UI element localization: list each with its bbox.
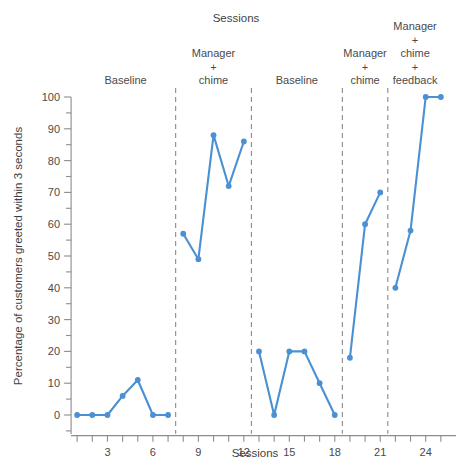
data-point [211,132,217,138]
x-tick-label: 24 [420,446,432,458]
y-tick-label: 50 [48,250,60,262]
phase-label-line: chime [199,74,228,86]
x-tick-label: 21 [374,446,386,458]
series-segment-line [350,192,380,357]
y-tick-label: 90 [48,123,60,135]
x-tick-label: 3 [104,446,110,458]
data-point [195,256,201,262]
phase-label-line: Manager [192,47,236,59]
data-point [347,355,353,361]
series-segment-line [183,135,244,259]
data-point [241,139,247,145]
data-point [271,412,277,418]
data-point [256,349,262,355]
y-tick-label: 80 [48,155,60,167]
phase-label-line: + [210,61,216,73]
sessions-line-chart: Sessions Percentage of customers greeted… [0,0,472,475]
phase-label-manager-chime-1: Manager+chime [192,47,236,86]
x-tick-label: 6 [150,446,156,458]
phase-label-line: Baseline [105,74,147,86]
x-tick-label: 18 [329,446,341,458]
data-point [317,380,323,386]
data-point [135,377,141,383]
phase-label-baseline-2: Baseline [276,74,318,86]
y-axis: 0102030405060708090100 [42,91,71,434]
data-point [74,412,80,418]
data-point [120,393,126,399]
data-point [286,349,292,355]
phase-label-line: Manager [393,20,437,32]
phase-label-line: chime [350,74,379,86]
y-axis-title: Percentage of customers greeted within 3… [12,127,24,386]
phase-label-line: chime [400,47,429,59]
phase-label-manager-chime-2: Manager+chime [343,47,387,86]
y-tick-label: 0 [54,409,60,421]
data-point [165,412,171,418]
phase-label-line: + [412,34,418,46]
data-point [392,285,398,291]
data-point [180,231,186,237]
data-point [150,412,156,418]
data-point [362,221,368,227]
y-tick-label: 100 [42,91,60,103]
phase-label-line: + [412,61,418,73]
data-point [423,94,429,100]
phase-labels: BaselineManager+chimeBaselineManager+chi… [105,20,438,86]
data-point [408,228,414,234]
data-point [302,349,308,355]
data-point [438,94,444,100]
y-tick-label: 70 [48,186,60,198]
x-tick-label: 15 [283,446,295,458]
chart-container: Sessions Percentage of customers greeted… [0,0,472,475]
x-tick-label: 9 [195,446,201,458]
series-segment-line [395,97,440,288]
data-point [89,412,95,418]
series-segment-line [259,351,335,415]
y-tick-label: 10 [48,377,60,389]
phase-label-line: Manager [343,47,387,59]
y-tick-label: 30 [48,314,60,326]
phase-label-line: feedback [393,74,438,86]
phase-label-line: + [362,61,368,73]
data-point [377,190,383,196]
phase-label-manager-chime-feedback: Manager+chime+feedback [393,20,438,86]
y-tick-label: 40 [48,282,60,294]
y-tick-label: 60 [48,218,60,230]
chart-title: Sessions [213,12,260,24]
phase-label-baseline-1: Baseline [105,74,147,86]
data-point [105,412,111,418]
phase-label-line: Baseline [276,74,318,86]
data-point [332,412,338,418]
data-point [226,183,232,189]
y-tick-label: 20 [48,345,60,357]
x-tick-label: 12 [238,446,250,458]
